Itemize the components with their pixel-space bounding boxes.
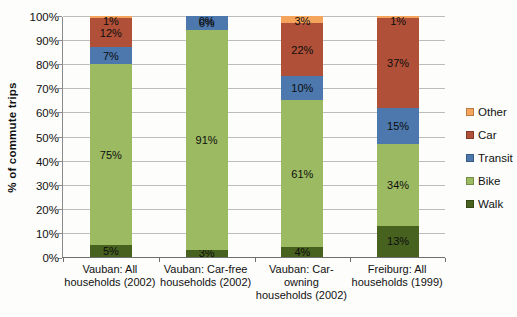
value-label-car: 12%	[100, 27, 122, 39]
value-label-bike: 34%	[387, 179, 409, 191]
category-label-4: Freiburg: All households (1999)	[345, 263, 449, 289]
y-axis-tick-label: 100%	[30, 11, 59, 23]
value-label-car: 0%	[199, 15, 215, 27]
legend-item-walk: Walk	[466, 197, 513, 210]
x-axis-tick	[159, 258, 160, 262]
bar-2: 3%91%6%0%	[186, 16, 228, 257]
y-axis-tick-label: 0%	[42, 252, 59, 264]
legend-swatch-other	[466, 108, 474, 116]
legend-item-bike: Bike	[466, 174, 513, 187]
legend-label-car: Car	[478, 129, 497, 141]
legend-swatch-bike	[466, 177, 474, 185]
bar-3: 4%61%10%22%3%	[281, 16, 323, 257]
bar-4: 13%34%15%37%1%	[377, 16, 419, 257]
value-label-transit: 10%	[291, 82, 313, 94]
legend-swatch-car	[466, 131, 474, 139]
category-label-2: Vauban: Car-free households (2002)	[154, 263, 258, 289]
value-label-bike: 61%	[291, 168, 313, 180]
legend: OtherCarTransitBikeWalk	[466, 105, 513, 220]
value-label-car: 37%	[387, 57, 409, 69]
value-label-other: 3%	[294, 15, 310, 27]
value-label-transit: 15%	[387, 120, 409, 132]
value-label-walk: 4%	[294, 246, 310, 258]
stacked-bar-chart: % of commute trips 5%75%7%12%1%3%91%6%0%…	[0, 0, 517, 317]
y-axis-tick-label: 70%	[36, 83, 59, 95]
y-axis-title: % of commute trips	[6, 17, 18, 258]
legend-item-car: Car	[466, 128, 513, 141]
legend-item-transit: Transit	[466, 151, 513, 164]
y-axis-tick-label: 50%	[36, 132, 59, 144]
legend-label-transit: Transit	[478, 152, 513, 164]
y-axis-tick-label: 60%	[36, 107, 59, 119]
value-label-car: 22%	[291, 44, 313, 56]
value-label-bike: 75%	[100, 149, 122, 161]
y-axis-tick-label: 40%	[36, 156, 59, 168]
bar-1: 5%75%7%12%1%	[90, 16, 132, 257]
x-axis-tick	[350, 258, 351, 262]
y-axis-tick-label: 90%	[36, 35, 59, 47]
value-label-walk: 13%	[387, 235, 409, 247]
x-axis-tick	[255, 258, 256, 262]
category-label-3: Vauban: Car- owning households (2002)	[249, 263, 353, 302]
legend-label-walk: Walk	[478, 198, 503, 210]
legend-label-bike: Bike	[478, 175, 500, 187]
x-axis-tick	[63, 258, 64, 262]
value-label-bike: 91%	[196, 134, 218, 146]
x-axis-tick	[445, 258, 446, 262]
category-label-1: Vauban: All households (2002)	[58, 263, 162, 289]
legend-swatch-transit	[466, 154, 474, 162]
legend-label-other: Other	[478, 106, 507, 118]
value-label-other: 1%	[390, 15, 406, 27]
y-axis-tick-label: 20%	[36, 204, 59, 216]
y-axis-tick-label: 30%	[36, 180, 59, 192]
plot-area: 5%75%7%12%1%3%91%6%0%4%61%10%22%3%13%34%…	[62, 17, 445, 258]
legend-item-other: Other	[466, 105, 513, 118]
value-label-other: 1%	[103, 15, 119, 27]
y-axis-tick-label: 10%	[36, 228, 59, 240]
value-label-walk: 5%	[103, 245, 119, 257]
legend-swatch-walk	[466, 200, 474, 208]
y-axis-tick-label: 80%	[36, 59, 59, 71]
value-label-transit: 7%	[103, 50, 119, 62]
